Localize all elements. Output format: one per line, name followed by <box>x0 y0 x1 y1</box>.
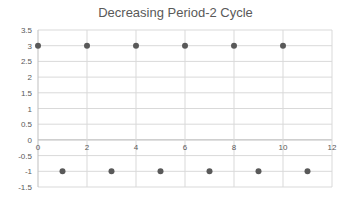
y-tick-label: 2 <box>28 73 33 82</box>
y-tick-label: 3 <box>28 42 33 51</box>
y-tick-label: 2.5 <box>21 57 33 66</box>
x-tick-label: 8 <box>232 143 237 152</box>
y-tick-label: -0.5 <box>18 152 32 161</box>
x-tick-label: 10 <box>279 143 288 152</box>
data-point <box>182 43 188 49</box>
y-tick-label: -1 <box>25 167 33 176</box>
x-tick-label: 12 <box>328 143 337 152</box>
y-tick-label: 3.5 <box>21 26 33 35</box>
data-point <box>207 168 213 174</box>
y-tick-label: 1 <box>28 105 33 114</box>
x-tick-label: 4 <box>134 143 139 152</box>
x-tick-label: 6 <box>183 143 188 152</box>
data-point <box>133 43 139 49</box>
x-tick-label: 0 <box>36 143 41 152</box>
data-point <box>280 43 286 49</box>
x-tick-label: 2 <box>85 143 90 152</box>
y-tick-label: 1.5 <box>21 89 33 98</box>
y-tick-label: -1.5 <box>18 183 32 192</box>
data-point <box>158 168 164 174</box>
data-point <box>60 168 66 174</box>
plot-area: 3.532.521.510.50-0.5-1-1.5024681012 <box>0 0 351 202</box>
data-point <box>35 43 41 49</box>
data-point <box>305 168 311 174</box>
y-tick-label: 0.5 <box>21 120 33 129</box>
chart: Decreasing Period-2 Cycle 3.532.521.510.… <box>0 0 351 202</box>
data-point <box>84 43 90 49</box>
data-point <box>231 43 237 49</box>
data-point <box>109 168 115 174</box>
data-point <box>256 168 262 174</box>
y-tick-label: 0 <box>28 136 33 145</box>
